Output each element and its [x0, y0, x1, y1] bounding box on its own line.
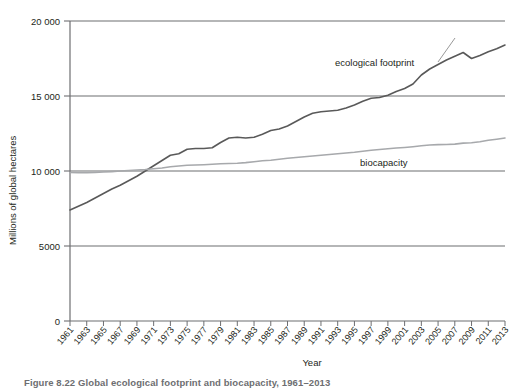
x-tick-label-1969: 1969 [122, 325, 143, 347]
x-tick-label-1973: 1973 [155, 325, 176, 347]
x-tick-label-1995: 1995 [339, 325, 360, 347]
x-tick-label-1983: 1983 [239, 325, 260, 347]
x-tick-label-1961: 1961 [55, 325, 76, 347]
y-tick-label-0: 0 [55, 316, 60, 327]
x-tick-label-2001: 2001 [390, 325, 411, 347]
x-tick-label-1993: 1993 [323, 325, 344, 347]
x-tick-label-1977: 1977 [189, 325, 210, 347]
x-tick-label-1997: 1997 [356, 325, 377, 347]
x-tick-label-1979: 1979 [206, 325, 227, 347]
x-tick-label-1965: 1965 [88, 325, 109, 347]
y-tick-label-5000: 5000 [39, 241, 60, 252]
x-tick-label-2005: 2005 [423, 325, 444, 347]
x-tick-label-1999: 1999 [373, 325, 394, 347]
x-tick-label-2007: 2007 [440, 325, 461, 347]
x-tick-label-1991: 1991 [306, 325, 327, 347]
y-axis-title: Millions of global hectares [7, 135, 18, 245]
x-axis-tick-labels: 1961196319651967196919711973197519771979… [55, 325, 511, 347]
x-axis-title: Year [302, 357, 321, 368]
x-tick-label-2003: 2003 [406, 325, 427, 347]
series-annotation-ecological-footprint: ecological footprint [335, 57, 415, 68]
x-tick-label-1967: 1967 [105, 325, 126, 347]
x-tick-label-1963: 1963 [72, 325, 93, 347]
y-tick-label-15000: 15 000 [31, 91, 60, 102]
x-tick-label-1985: 1985 [256, 325, 277, 347]
x-tick-label-2009: 2009 [457, 325, 478, 347]
y-tick-label-10000: 10 000 [31, 166, 60, 177]
x-tick-label-1989: 1989 [289, 325, 310, 347]
y-axis-tick-labels: 20 000 15 000 10 000 5000 0 [31, 16, 60, 327]
x-tick-label-1981: 1981 [222, 325, 243, 347]
x-tick-label-2011: 2011 [474, 325, 494, 346]
y-tick-label-20000: 20 000 [31, 16, 60, 27]
x-tick-label-1987: 1987 [272, 325, 293, 347]
x-tick-label-1971: 1971 [139, 325, 160, 347]
x-tick-label-2013: 2013 [490, 325, 511, 347]
y-axis-ticks [64, 21, 70, 321]
x-tick-label-1975: 1975 [172, 325, 193, 347]
figure-caption: Figure 8.22 Global ecological footprint … [24, 377, 330, 388]
series-annotation-biocapacity: biocapacity [360, 157, 408, 168]
